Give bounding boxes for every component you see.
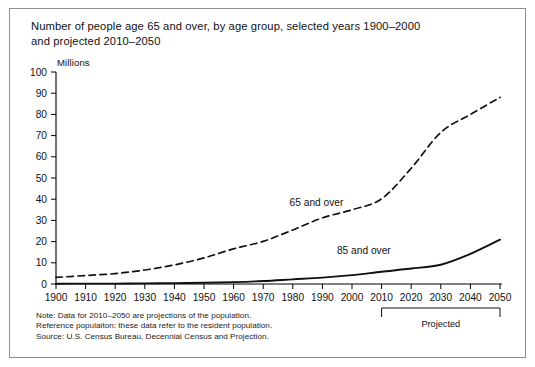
y-axis-group: 0102030405060708090100 — [30, 67, 56, 290]
projected-bracket-label: Projected — [421, 319, 460, 329]
x-axis-tick-labels: 1900191019201930194019501960197019801990… — [45, 292, 512, 303]
x-tick-label: 2030 — [429, 292, 452, 303]
series-label-85-and-over: 85 and over — [337, 245, 391, 256]
y-axis-tick-labels: 0102030405060708090100 — [30, 67, 47, 290]
x-tick-label: 1940 — [163, 292, 186, 303]
y-tick-label: 60 — [36, 151, 48, 162]
y-tick-label: 50 — [36, 173, 48, 184]
y-tick-label: 80 — [36, 109, 48, 120]
x-tick-label: 2010 — [370, 292, 393, 303]
y-tick-label: 100 — [30, 67, 47, 78]
x-tick-label: 1950 — [193, 292, 216, 303]
series-annotations: 65 and over85 and over — [290, 197, 392, 257]
x-tick-label: 2020 — [400, 292, 423, 303]
x-tick-label: 1960 — [222, 292, 245, 303]
x-tick-label: 1930 — [133, 292, 156, 303]
x-axis-group: 1900191019201930194019501960197019801990… — [45, 284, 512, 303]
series-line-65-and-over — [56, 97, 500, 277]
y-tick-label: 0 — [41, 279, 47, 290]
x-tick-label: 1990 — [311, 292, 334, 303]
y-tick-label: 20 — [36, 236, 48, 247]
y-tick-label: 40 — [36, 194, 48, 205]
x-tick-label: 1910 — [74, 292, 97, 303]
x-tick-label: 2040 — [459, 292, 482, 303]
x-tick-label: 1900 — [45, 292, 68, 303]
y-tick-label: 10 — [36, 257, 48, 268]
x-axis-ticks — [56, 284, 500, 289]
y-axis-ticks — [51, 72, 56, 284]
series-label-65-and-over: 65 and over — [290, 197, 344, 208]
y-tick-label: 90 — [36, 88, 48, 99]
y-tick-label: 30 — [36, 215, 48, 226]
note-line-1: Note: Data for 2010–2050 are projections… — [36, 311, 272, 321]
figure-container: Number of people age 65 and over, by age… — [0, 0, 535, 367]
x-tick-label: 1920 — [104, 292, 127, 303]
projected-bracket — [382, 308, 500, 317]
x-tick-label: 2050 — [489, 292, 512, 303]
y-tick-label: 70 — [36, 130, 48, 141]
x-tick-label: 1980 — [281, 292, 304, 303]
series-line-85-and-over — [56, 240, 500, 284]
series-group — [56, 97, 500, 283]
x-tick-label: 2000 — [341, 292, 364, 303]
note-line-3: Source: U.S. Census Bureau, Decennial Ce… — [36, 332, 272, 342]
note-line-2: Reference populaiton: these data refer t… — [36, 321, 272, 331]
chart-notes: Note: Data for 2010–2050 are projections… — [36, 311, 272, 342]
x-tick-label: 1970 — [252, 292, 275, 303]
projected-bracket-group: Projected — [382, 308, 500, 329]
